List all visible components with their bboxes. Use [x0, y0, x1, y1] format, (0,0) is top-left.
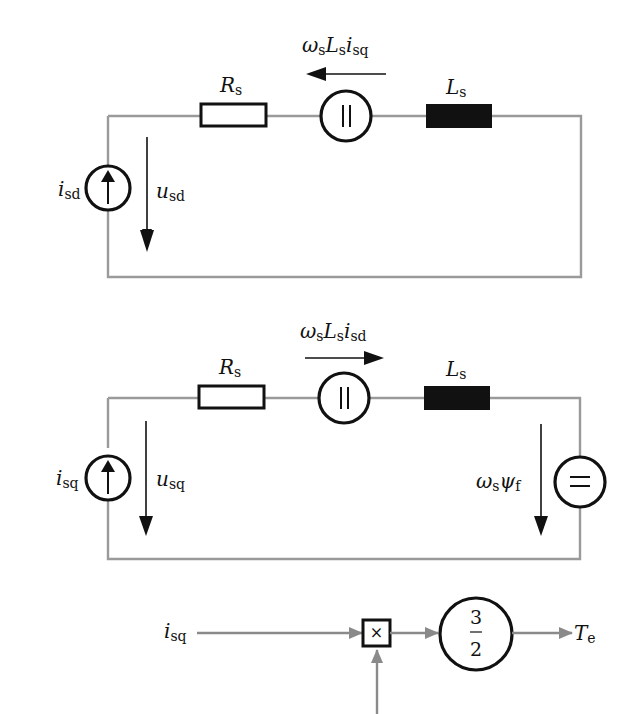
q-axis-coupling-label: ωsLsisd	[300, 319, 367, 344]
gain-numerator: 3	[470, 606, 482, 628]
pmsm-equivalent-circuits-diagram: isd usd Rs ωsLsisq Ls	[0, 0, 636, 714]
arrow-right-icon	[364, 351, 384, 365]
q-axis-inductor	[424, 386, 490, 410]
q-axis-back-emf-source	[555, 457, 605, 507]
d-axis-coupling-label: ωsLsisq	[302, 33, 369, 58]
d-axis-coupling-source	[321, 91, 371, 141]
multiplier-icon: ×	[370, 623, 383, 642]
torque-input-label: isq	[164, 619, 187, 644]
gain-denominator: 2	[470, 638, 482, 660]
d-axis-current-label: isd	[58, 177, 81, 202]
arrow-down-icon	[140, 230, 154, 252]
q-axis-resistor	[199, 386, 264, 408]
q-axis-resistor-label: Rs	[218, 355, 241, 380]
q-axis-inductor-label: Ls	[445, 357, 466, 382]
q-axis-coupling-source	[319, 373, 369, 423]
q-axis-back-emf-label: ωsψf	[476, 469, 522, 494]
d-axis-inductor	[426, 104, 492, 128]
q-axis-voltage-label: usq	[156, 467, 185, 492]
d-axis-inductor-label: Ls	[445, 75, 466, 100]
arrow-left-icon	[306, 67, 326, 81]
d-axis-resistor-label: Rs	[219, 73, 242, 98]
d-axis-voltage-label: usd	[156, 179, 185, 204]
d-axis-current-source	[86, 166, 130, 210]
q-axis-circuit: isq usq Rs ωsLsisd Ls	[56, 319, 605, 559]
arrow-down-icon	[139, 516, 153, 536]
torque-output-label: Te	[574, 621, 596, 646]
arrow-down-icon	[534, 516, 548, 536]
torque-block-diagram: isq × 3 2 Te	[164, 598, 596, 714]
d-axis-circuit: isd usd Rs ωsLsisq Ls	[58, 33, 581, 277]
d-axis-resistor	[201, 104, 266, 126]
q-axis-current-source	[86, 456, 130, 500]
q-axis-current-label: isq	[56, 466, 79, 491]
